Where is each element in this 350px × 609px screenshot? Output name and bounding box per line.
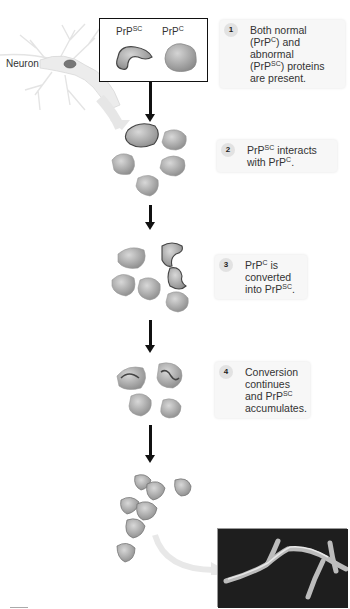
protein-comparison-box: PrPSC PrPC — [99, 18, 208, 82]
step-4-callout: 4 Conversion continues and PrPSC accumul… — [215, 362, 310, 418]
nucleus-icon — [64, 60, 76, 68]
prpsc-label: PrPSC — [116, 25, 142, 37]
step-number-badge: 2 — [221, 143, 235, 157]
protein-cluster-step3 — [110, 240, 205, 325]
step-number-badge: 3 — [219, 258, 233, 272]
protein-pair-illustration — [110, 39, 205, 79]
step-3-callout: 3 PrPC is converted into PrPSC. — [215, 255, 307, 299]
protein-cluster-step4 — [115, 360, 200, 435]
arrow-1-shaft — [149, 82, 152, 117]
prpc-label: PrPC — [162, 25, 184, 37]
arrow-down-icon — [145, 222, 155, 230]
step-2-callout: 2 PrPSC interacts with PrPC. — [217, 140, 337, 172]
step-number-badge: 4 — [219, 365, 233, 379]
step-1-callout: 1 Both normal (PrPC) and abnormal (PrPSC… — [220, 20, 345, 88]
neuron-label: Neuron — [6, 58, 39, 69]
curved-arrow — [155, 535, 215, 570]
step-number-badge: 1 — [224, 23, 238, 37]
arrow-down-icon — [145, 455, 155, 463]
arrow-down-icon — [145, 345, 155, 353]
prpsc-protein-icon — [117, 47, 152, 70]
protein-aggregate-fibril — [115, 470, 225, 575]
prpc-protein-icon — [165, 44, 196, 72]
scale-bar — [10, 607, 28, 608]
prion-fibril-micrograph — [217, 528, 347, 607]
protein-cluster-step2 — [110, 120, 200, 205]
